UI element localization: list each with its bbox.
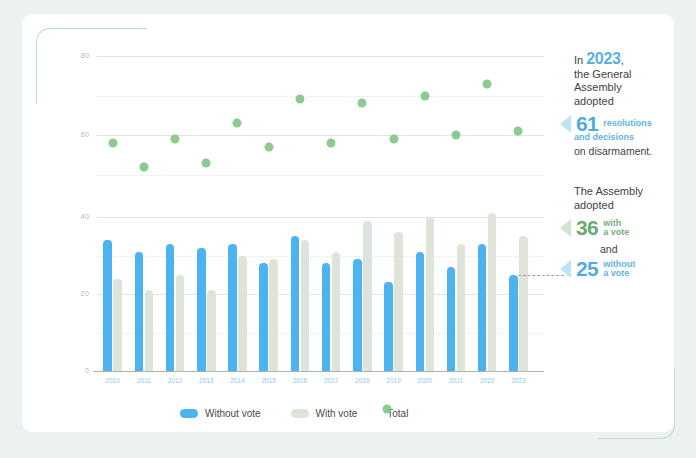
bar-without-vote-2021[interactable]	[447, 267, 456, 371]
x-axis-label-2013: 2013	[191, 377, 221, 384]
legend-swatch-icon-2	[383, 404, 392, 413]
bar-with-vote-2022[interactable]	[488, 213, 497, 371]
annotation-total-callout: 61 resolutions	[560, 114, 686, 134]
annotation-total-number: 61	[576, 114, 598, 134]
gridline-scatter-80	[97, 56, 544, 57]
callout-arrow-green-icon	[560, 219, 571, 237]
annotation-without-vote-sub: without a vote	[603, 260, 635, 279]
bar-without-vote-2016[interactable]	[291, 236, 300, 371]
total-dot-2020[interactable]	[420, 91, 429, 100]
annotation-total-sub: resolutions	[603, 119, 652, 129]
x-axis-label-2011: 2011	[129, 377, 159, 384]
bar-without-vote-2013[interactable]	[197, 248, 206, 371]
total-dot-2019[interactable]	[389, 134, 398, 143]
bar-with-vote-2013[interactable]	[207, 290, 216, 371]
bar-without-vote-2023[interactable]	[509, 275, 518, 371]
bar-with-vote-2020[interactable]	[426, 217, 435, 371]
gridline-bar-10	[97, 333, 544, 334]
bar-with-vote-2017[interactable]	[332, 252, 341, 371]
y-axis-label-bar-0: 0	[67, 367, 89, 374]
bar-with-vote-2019[interactable]	[394, 232, 403, 371]
total-dot-2022[interactable]	[483, 79, 492, 88]
total-dot-2012[interactable]	[171, 134, 180, 143]
bar-without-vote-2014[interactable]	[228, 244, 237, 371]
total-dot-2013[interactable]	[202, 158, 211, 167]
page-root: 6080020402010201120122013201420152016201…	[0, 0, 696, 458]
y-axis-label-bar-20: 20	[67, 290, 89, 297]
x-axis-label-2018: 2018	[347, 377, 377, 384]
total-dot-2021[interactable]	[451, 131, 460, 140]
x-axis-label-2016: 2016	[285, 377, 315, 384]
annotation-total-year: 2023	[586, 50, 620, 67]
annotation-votes: The Assembly adopted 36 with a vote and …	[574, 185, 686, 279]
y-axis-label-bar-40: 40	[67, 213, 89, 220]
annotation-total-tail: on disarmament.	[574, 145, 686, 157]
total-dot-2015[interactable]	[264, 142, 273, 151]
callout-arrow-blue-icon	[560, 260, 571, 278]
annotation-total-line1: In 2023,	[574, 52, 686, 68]
annotation-with-vote-number: 36	[576, 218, 598, 238]
gridline-scatter-70	[97, 96, 544, 97]
bar-with-vote-2014[interactable]	[238, 256, 247, 372]
annotation-total-line4: adopted	[574, 95, 686, 109]
legend-swatch-icon-1	[291, 409, 309, 418]
bar-with-vote-2011[interactable]	[145, 290, 154, 371]
total-dot-2016[interactable]	[295, 95, 304, 104]
annotation-total-line2: the General	[574, 68, 686, 82]
x-axis-label-2023: 2023	[503, 377, 533, 384]
total-dot-2017[interactable]	[327, 138, 336, 147]
x-axis-label-2017: 2017	[316, 377, 346, 384]
x-axis-label-2010: 2010	[98, 377, 128, 384]
total-dot-2018[interactable]	[358, 99, 367, 108]
bar-without-vote-2011[interactable]	[135, 252, 144, 371]
x-axis-label-2019: 2019	[379, 377, 409, 384]
bar-with-vote-2018[interactable]	[363, 221, 372, 371]
bar-without-vote-2010[interactable]	[103, 240, 112, 371]
legend-swatch-icon-0	[180, 409, 198, 418]
gridline-bar-20	[97, 294, 544, 295]
total-dot-2023[interactable]	[514, 127, 523, 136]
bar-with-vote-2015[interactable]	[269, 259, 278, 371]
bar-with-vote-2012[interactable]	[176, 275, 185, 371]
bar-without-vote-2020[interactable]	[416, 252, 425, 371]
annotation-votes-line2: adopted	[574, 199, 686, 213]
gridline-bar-40	[97, 217, 544, 218]
annotation-without-vote-number: 25	[576, 259, 598, 279]
x-axis-label-2020: 2020	[410, 377, 440, 384]
bar-without-vote-2015[interactable]	[259, 263, 268, 371]
annotation-total-line3: Assembly	[574, 81, 686, 95]
x-axis-label-2021: 2021	[441, 377, 471, 384]
gridline-bar-30	[97, 256, 544, 257]
bar-without-vote-2012[interactable]	[166, 244, 175, 371]
annotation-with-vote-sub-line2: a vote	[603, 228, 629, 238]
total-dot-2010[interactable]	[108, 138, 117, 147]
bar-without-vote-2019[interactable]	[384, 282, 393, 371]
bar-with-vote-2010[interactable]	[113, 279, 122, 371]
legend-label-1: With vote	[316, 408, 358, 419]
bar-with-vote-2016[interactable]	[301, 240, 310, 371]
gridline-scatter-50	[97, 175, 544, 176]
total-dot-2014[interactable]	[233, 119, 242, 128]
annotation-total-prefix: In	[574, 54, 583, 66]
legend-item-2[interactable]: Total	[387, 408, 408, 419]
annotation-total-sub-line1: resolutions	[603, 119, 652, 129]
legend-label-0: Without vote	[205, 408, 261, 419]
y-axis-label-scatter-80: 80	[67, 52, 89, 59]
annotation-with-vote-callout: 36 with a vote	[560, 218, 686, 238]
x-axis-label-2022: 2022	[472, 377, 502, 384]
callout-connector-without-vote	[518, 275, 564, 276]
total-dot-2011[interactable]	[139, 162, 148, 171]
bar-without-vote-2018[interactable]	[353, 259, 362, 371]
annotation-without-vote-sub-line2: a vote	[603, 269, 635, 279]
callout-arrow-icon	[560, 115, 571, 133]
bar-with-vote-2023[interactable]	[519, 236, 528, 371]
chart-legend: Without voteWith voteTotal	[180, 403, 480, 423]
legend-item-1[interactable]: With vote	[291, 408, 358, 419]
legend-item-0[interactable]: Without vote	[180, 408, 261, 419]
bar-without-vote-2022[interactable]	[478, 244, 487, 371]
x-axis-label-2012: 2012	[160, 377, 190, 384]
x-axis-label-2015: 2015	[254, 377, 284, 384]
annotation-without-vote-callout: 25 without a vote	[560, 259, 686, 279]
bar-without-vote-2017[interactable]	[322, 263, 331, 371]
bar-with-vote-2021[interactable]	[457, 244, 466, 371]
